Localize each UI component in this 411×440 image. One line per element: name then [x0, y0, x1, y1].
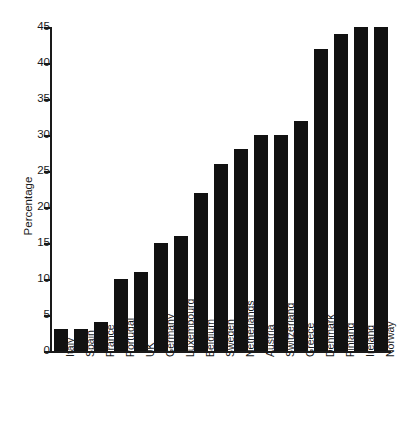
y-tick-label: 0 [14, 345, 50, 357]
x-tick-label: Finland [345, 323, 356, 357]
bar-slot [351, 27, 371, 351]
y-tick-label: 10 [14, 273, 50, 285]
plot-area [51, 27, 391, 351]
bar-slot [131, 27, 151, 351]
bar [334, 34, 347, 351]
x-axis-line [50, 351, 391, 353]
y-tick-label: 25 [14, 165, 50, 177]
x-tick-label: Luxembourg [185, 299, 196, 357]
y-tick-label: 20 [14, 201, 50, 213]
bar-slot [311, 27, 331, 351]
bar-slot [91, 27, 111, 351]
bar-slot [51, 27, 71, 351]
y-tick-label: 40 [14, 57, 50, 69]
x-tick-label: Austria [265, 324, 276, 357]
bar-chart: Percentage 051015202530354045 ItalySpain… [0, 0, 411, 440]
bar [314, 49, 327, 351]
y-tick-label: 30 [14, 129, 50, 141]
y-tick-label: 5 [14, 309, 50, 321]
x-tick-label: Sweden [225, 319, 236, 357]
x-tick-label: Germany [165, 314, 176, 357]
bar-slot [71, 27, 91, 351]
bar [134, 272, 147, 351]
bar-slot [151, 27, 171, 351]
y-tick-label: 35 [14, 93, 50, 105]
x-tick-label: Netherlands [245, 300, 256, 357]
x-tick-label: Norway [385, 321, 396, 357]
bar-slot [371, 27, 391, 351]
bar-slot [111, 27, 131, 351]
x-tick-label: Spain [85, 330, 96, 357]
x-tick-label: Denmark [325, 314, 336, 357]
x-tick-label: Belgium [205, 319, 216, 357]
y-tick-label: 45 [14, 21, 50, 33]
x-tick-label: France [105, 324, 116, 357]
x-tick-label: Portugal [125, 318, 136, 357]
x-tick-label: Italy [65, 338, 76, 357]
bar [254, 135, 267, 351]
bar-slot [331, 27, 351, 351]
bar [374, 27, 387, 351]
x-tick-label: UK [145, 342, 156, 357]
bar-slot [211, 27, 231, 351]
x-tick-label: Ireland [365, 325, 376, 357]
x-tick-label: Switzerland [285, 303, 296, 357]
y-tick-label: 15 [14, 237, 50, 249]
bar [294, 121, 307, 351]
x-tick-label: Greece [305, 323, 316, 357]
bar [354, 27, 367, 351]
